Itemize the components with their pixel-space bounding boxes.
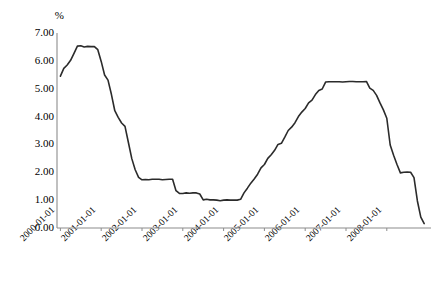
plot-area: [0, 0, 433, 292]
series-line-rate: [60, 46, 424, 224]
line-chart: % 0.001.002.003.004.005.006.007.00 2000-…: [0, 0, 433, 292]
